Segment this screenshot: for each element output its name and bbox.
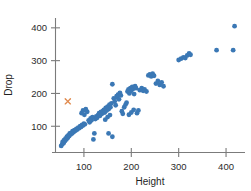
data-point [214,48,219,53]
data-point [144,89,149,94]
x-tick-label: 300 [171,161,187,172]
data-point [136,108,141,113]
data-point [113,103,118,108]
data-point [124,100,129,105]
data-point [91,137,96,142]
data-point [110,134,115,139]
y-tick-label: 100 [31,121,47,132]
data-point [106,131,111,136]
y-tick-label: 300 [31,55,47,66]
data-point [85,109,90,114]
data-point [92,131,97,136]
axes-group [52,18,245,153]
y-tick-label: 200 [31,88,47,99]
data-point [231,48,236,53]
scatter-plot-figure: 100200300400 100200300400 Height Drop [0,0,251,191]
x-tick-label: 200 [123,161,139,172]
data-point [110,82,115,87]
data-point [232,24,237,29]
x-tick-label: 100 [76,161,92,172]
data-point [82,122,87,127]
highlight-marker-layer [65,99,70,104]
data-point [120,111,125,116]
data-point [152,73,157,78]
x-axis-tick-labels: 100200300400 [76,161,234,172]
y-axis-title: Drop [3,74,14,96]
y-tick-label: 400 [31,22,47,33]
data-points-layer [59,24,237,149]
data-point [132,92,137,97]
highlight-x-marker [65,99,70,104]
plot-canvas: 100200300400 100200300400 Height Drop [0,0,251,191]
y-axis-tick-labels: 100200300400 [31,22,47,131]
data-point [108,113,113,118]
data-point [118,93,123,98]
data-point [188,52,193,57]
data-point [161,84,166,89]
x-tick-label: 400 [218,161,234,172]
x-axis-title: Height [136,176,165,187]
